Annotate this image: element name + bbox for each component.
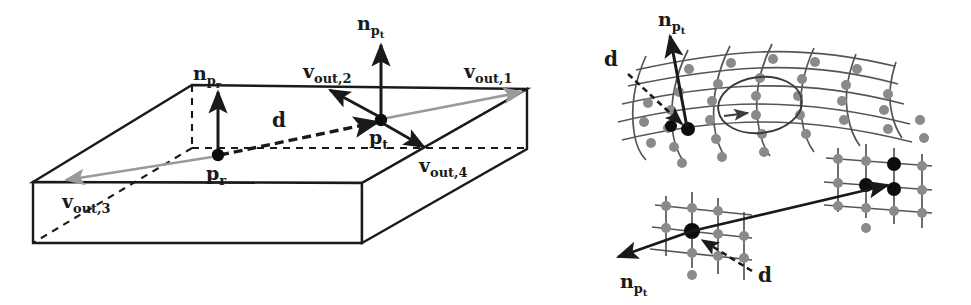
mesh-vertex-dark-top2 (665, 120, 677, 132)
label-d-top-right: d (604, 47, 618, 71)
label-d: d (272, 108, 286, 132)
mesh-vertex-dark-top (681, 122, 695, 136)
mesh-vertex-dark-right-c (887, 182, 901, 196)
mesh-vertex-dark-right-b (887, 157, 901, 171)
diagram-svg: d npr pr npt pt (0, 0, 971, 305)
label-d-bottom-right: d (758, 263, 772, 287)
figure-canvas: d npr pr npt pt (0, 0, 971, 305)
point-p-r-dot (212, 149, 224, 161)
